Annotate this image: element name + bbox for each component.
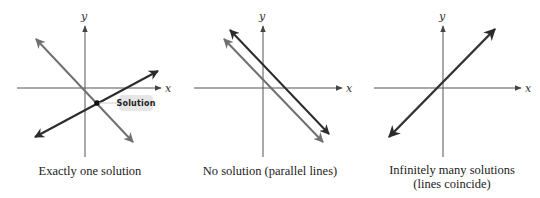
caption: No solution (parallel lines) [203, 164, 337, 178]
panel-one-solution: x y Solution Exactly one solution [17, 10, 172, 178]
y-axis-label: y [80, 10, 88, 23]
caption: Exactly one solution [39, 164, 143, 178]
dark-parallel-line [230, 30, 329, 134]
systems-of-equations-diagram: x y Solution Exactly one solution x y No… [0, 0, 540, 198]
x-axis-label: x [165, 82, 172, 95]
x-axis-label: x [346, 82, 353, 95]
x-axis-label: x [525, 82, 532, 95]
solution-badge-label: Solution [116, 99, 155, 108]
coincident-line [389, 29, 495, 137]
panel-infinitely-many: x y Infinitely many solutions (lines coi… [374, 10, 532, 191]
solution-point [94, 100, 100, 106]
caption-line-1: Infinitely many solutions [389, 163, 515, 177]
y-axis-label: y [258, 10, 266, 23]
gray-parallel-line [224, 39, 323, 142]
caption-line-2: (lines coincide) [413, 177, 490, 191]
panel-no-solution: x y No solution (parallel lines) [194, 10, 353, 178]
y-axis-label: y [438, 10, 446, 23]
